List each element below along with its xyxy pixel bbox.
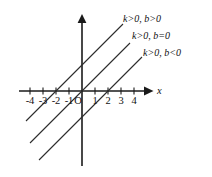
x-axis-label: x xyxy=(156,85,162,96)
x-tick-label--3: -3 xyxy=(39,95,48,106)
x-tick-label-3: 3 xyxy=(118,95,123,106)
x-tick-label--1: -1 xyxy=(65,95,74,106)
line-label-b-zero: k>0, b=0 xyxy=(132,30,170,41)
x-tick-label-4: 4 xyxy=(131,95,137,106)
line-label-b-negative: k>0, b<0 xyxy=(143,47,181,58)
graph-line-b-negative xyxy=(39,57,142,160)
line-label-b-positive: k>0, b>0 xyxy=(123,13,161,24)
origin-label: O xyxy=(74,95,82,106)
function-graph-figure: -4 -3 -2 -1 1 2 3 4 O x k>0, b>0 k>0, b=… xyxy=(0,0,212,177)
x-tick-label--2: -2 xyxy=(52,95,61,106)
line-annotations-group: k>0, b>0 k>0, b=0 k>0, b<0 xyxy=(123,13,181,58)
x-tick-label-1: 1 xyxy=(92,95,97,106)
y-axis-arrowhead xyxy=(78,14,87,23)
coordinate-plane-svg: -4 -3 -2 -1 1 2 3 4 O x k>0, b>0 k>0, b=… xyxy=(0,0,212,177)
x-tick-label-2: 2 xyxy=(105,95,110,106)
x-axis-arrowhead xyxy=(144,87,154,96)
graph-line-b-zero xyxy=(30,43,130,143)
graph-line-b-positive xyxy=(26,24,123,121)
x-tick-label--4: -4 xyxy=(26,95,35,106)
